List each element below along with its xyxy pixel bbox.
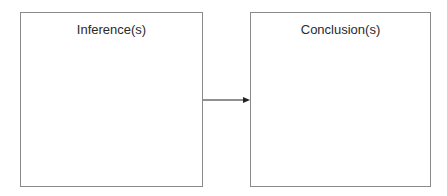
- conclusions-box: Conclusion(s): [250, 12, 431, 187]
- conclusions-label: Conclusion(s): [251, 22, 430, 37]
- inferences-box: Inference(s): [20, 12, 203, 187]
- arrow-right-icon: [203, 97, 250, 103]
- inferences-label: Inference(s): [21, 22, 202, 37]
